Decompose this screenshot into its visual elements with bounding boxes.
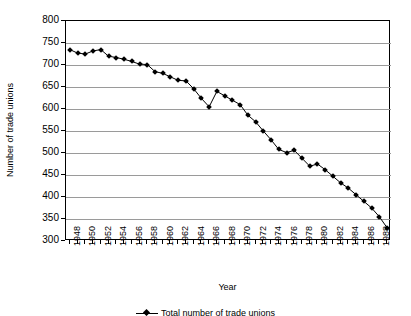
x-axis-tick-mark [177,240,178,244]
y-axis-title-text: Number of trade unions [5,83,15,177]
x-axis-tick-label: 1980 [320,226,329,246]
x-axis-tick-mark [332,240,333,244]
x-axis-tick-label: 1952 [104,226,113,246]
x-axis-tick-label: 1974 [274,226,283,246]
x-axis-tick-mark [193,240,194,244]
y-axis-tick-mark [61,240,65,241]
y-axis-tick-label: 400 [29,191,59,201]
x-axis-tick-mark [239,240,240,244]
x-axis-tick-label: 1948 [73,226,82,246]
chart-legend: Total number of trade unions [0,308,411,316]
x-axis-tick-label: 1950 [88,226,97,246]
x-axis-tick-mark [69,240,70,244]
trade-unions-line-chart: Number of trade unions 30035040045050055… [0,0,411,316]
legend-diamond-marker [143,308,150,315]
x-axis-tick-label: 1970 [243,226,252,246]
x-axis-tick-mark [363,240,364,244]
legend-line-swatch [136,313,158,314]
y-axis-tick-label: 350 [29,213,59,223]
x-axis-tick-mark [286,240,287,244]
x-axis-tick-mark [162,240,163,244]
legend-label: Total number of trade unions [161,308,275,316]
y-axis-tick-label: 300 [29,235,59,245]
x-axis-tick-mark [208,240,209,244]
y-axis-title: Number of trade unions [2,20,18,240]
x-axis-tick-mark [224,240,225,244]
x-axis-tick-mark [84,240,85,244]
y-axis-tick-label: 700 [29,59,59,69]
x-axis-tick-label: 1954 [119,226,128,246]
x-axis-tick-label: 1968 [228,226,237,246]
series-line [66,21,391,241]
x-axis-title-text: Year [218,282,236,292]
x-axis-tick-label: 1972 [259,226,268,246]
x-axis-tick-label: 1958 [150,226,159,246]
x-axis-tick-label: 1976 [290,226,299,246]
plot-area [65,20,390,240]
x-axis-tick-mark [270,240,271,244]
y-axis-tick-label: 450 [29,169,59,179]
x-axis-tick-label: 1962 [181,226,190,246]
x-axis-tick-label: 1986 [367,226,376,246]
x-axis-tick-label: 1982 [336,226,345,246]
x-axis-tick-mark [347,240,348,244]
x-axis-tick-mark [146,240,147,244]
y-axis-tick-label: 750 [29,37,59,47]
x-axis-tick-label: 1956 [135,226,144,246]
x-axis-tick-mark [378,240,379,244]
y-axis-tick-label: 800 [29,15,59,25]
x-axis-tick-mark [100,240,101,244]
x-axis-tick-label: 1978 [305,226,314,246]
x-axis-tick-mark [131,240,132,244]
y-axis-tick-label: 650 [29,81,59,91]
y-axis-tick-label: 600 [29,103,59,113]
x-axis-tick-mark [255,240,256,244]
x-axis-tick-label: 1960 [166,226,175,246]
x-axis-tick-mark [301,240,302,244]
x-axis-tick-label: 1964 [197,226,206,246]
x-axis-tick-label: 1984 [351,226,360,246]
x-axis-title: Year [65,282,390,292]
x-axis-tick-mark [316,240,317,244]
y-axis-tick-label: 500 [29,147,59,157]
y-axis-tick-label: 550 [29,125,59,135]
x-axis-tick-mark [115,240,116,244]
x-axis-tick-label: 1966 [212,226,221,246]
x-axis-tick-label: 1988 [382,226,391,246]
